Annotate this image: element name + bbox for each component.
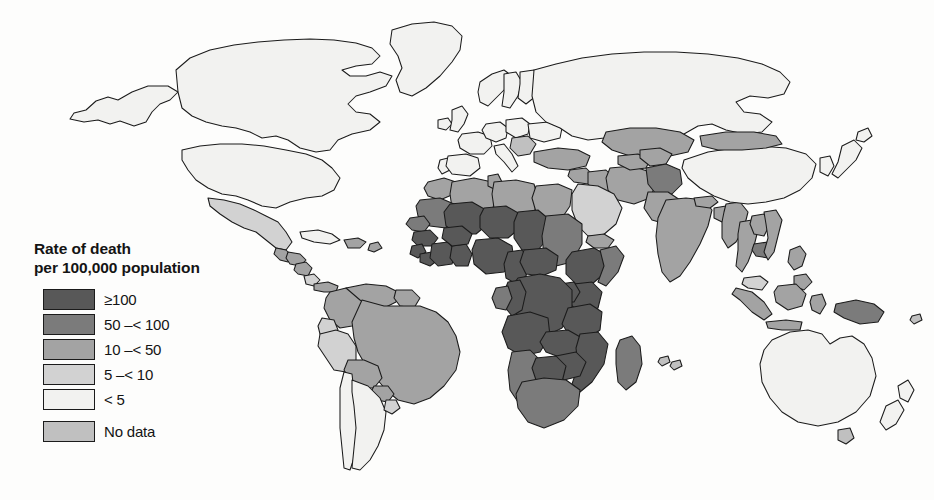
legend-swatch-no-data: [43, 421, 95, 442]
region-australia: [760, 330, 876, 426]
legend-swatch-lt-5: [43, 389, 95, 410]
region-indonesia-sulawesi: [810, 294, 826, 314]
region-united-states: [182, 144, 340, 208]
region-new-zealand-2: [880, 400, 904, 430]
region-south-africa: [516, 378, 580, 428]
legend-item-50-100: 50 –< 100: [43, 312, 244, 337]
legend-swatch-gte-100: [43, 289, 95, 310]
region-comoros: [658, 356, 670, 366]
legend-label-no-data: No data: [104, 423, 155, 440]
region-indonesia-sumatra: [732, 288, 772, 320]
region-poland: [506, 118, 530, 138]
legend-item-5-10: 5 –< 10: [43, 362, 244, 387]
region-malaysia: [742, 276, 768, 290]
legend-item-10-50: 10 –< 50: [43, 337, 244, 362]
region-fiji: [910, 314, 922, 324]
region-new-zealand: [898, 380, 914, 402]
region-nicaragua: [294, 262, 312, 276]
region-china: [682, 146, 816, 204]
region-madagascar: [616, 336, 642, 390]
region-caribbean: [344, 238, 366, 248]
region-philippines: [788, 246, 806, 270]
region-indonesia-java: [766, 320, 802, 330]
legend-item-lt-5: < 5: [43, 387, 244, 412]
region-india: [656, 198, 712, 282]
legend-swatch-10-50: [43, 339, 95, 360]
legend-title: Rate of death per 100,000 population: [34, 240, 244, 278]
region-russia: [532, 52, 790, 140]
region-nepal: [694, 196, 718, 208]
region-canada: [176, 39, 392, 152]
region-guyana: [394, 290, 420, 308]
region-korea: [820, 156, 834, 176]
region-japan: [832, 140, 862, 178]
legend-label-lt-5: < 5: [104, 391, 125, 408]
region-japan-2: [856, 128, 872, 142]
legend-swatch-50-100: [43, 314, 95, 335]
region-cuba: [300, 230, 340, 244]
region-turkey: [534, 148, 590, 170]
legend-label-gte-100: ≥100: [104, 291, 136, 308]
region-united-kingdom: [450, 106, 468, 132]
region-greenland: [390, 22, 462, 96]
region-senegal: [406, 216, 430, 232]
legend-label-5-10: 5 –< 10: [104, 366, 153, 383]
map-legend: Rate of death per 100,000 population ≥10…: [34, 240, 244, 444]
region-papua-new-guinea: [834, 300, 884, 324]
region-tasmania: [838, 428, 854, 444]
region-mauritius: [670, 360, 682, 370]
region-central-african-republic: [520, 248, 558, 276]
region-alaska: [70, 86, 178, 126]
region-caribbean-2: [368, 242, 382, 252]
region-spain: [446, 154, 480, 176]
region-angola: [502, 312, 550, 356]
region-mongolia: [700, 132, 782, 150]
legend-items: ≥100 50 –< 100 10 –< 50 5 –< 10 < 5 No d: [43, 287, 244, 444]
world-choropleth-figure: Rate of death per 100,000 population ≥10…: [0, 0, 934, 500]
region-yemen: [586, 234, 614, 248]
region-viet-nam: [764, 210, 782, 260]
legend-label-10-50: 10 –< 50: [104, 341, 161, 358]
legend-swatch-5-10: [43, 364, 95, 385]
region-ghana: [450, 244, 472, 266]
legend-item-gte-100: ≥100: [43, 287, 244, 312]
legend-item-no-data: No data: [43, 419, 244, 444]
legend-label-50-100: 50 –< 100: [104, 316, 169, 333]
